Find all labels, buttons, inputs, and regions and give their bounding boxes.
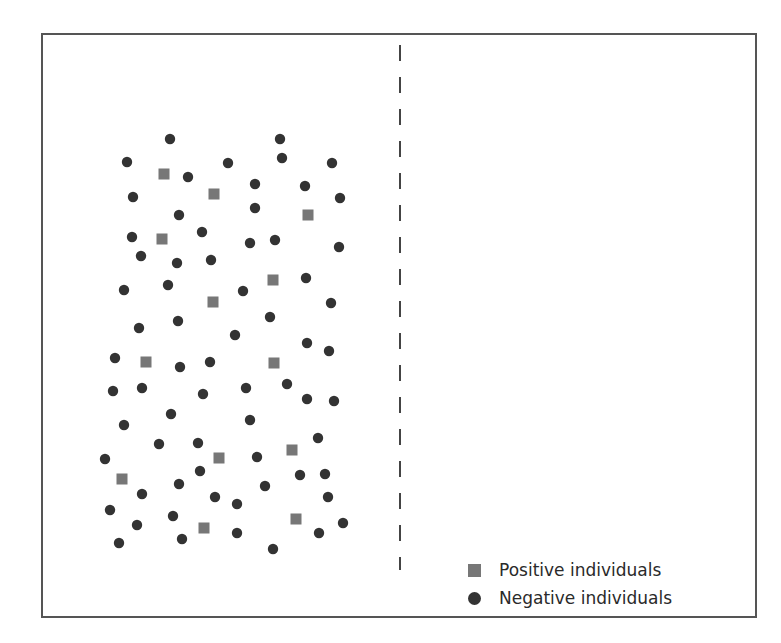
negative-individual-marker [137, 489, 147, 499]
positive-points-group [117, 169, 314, 534]
negative-individual-marker [206, 255, 216, 265]
negative-individual-marker [300, 181, 310, 191]
negative-individual-marker [174, 479, 184, 489]
negative-individual-marker [119, 420, 129, 430]
negative-individual-marker [295, 470, 305, 480]
negative-individual-marker [168, 511, 178, 521]
negative-individual-marker [302, 394, 312, 404]
negative-individual-marker [136, 251, 146, 261]
legend-item-negative: Negative individuals [468, 587, 672, 609]
positive-individual-marker [199, 523, 210, 534]
negative-individual-marker [232, 528, 242, 538]
negative-individual-marker [245, 238, 255, 248]
positive-individual-marker [208, 297, 219, 308]
positive-individual-marker [268, 275, 279, 286]
negative-individual-marker [252, 452, 262, 462]
negative-individual-marker [198, 389, 208, 399]
circle-marker-icon [468, 592, 481, 605]
negative-individual-marker [327, 158, 337, 168]
negative-individual-marker [210, 492, 220, 502]
negative-individual-marker [301, 273, 311, 283]
square-marker-icon [468, 564, 481, 577]
negative-individual-marker [177, 534, 187, 544]
negative-individual-marker [302, 338, 312, 348]
negative-individual-marker [270, 235, 280, 245]
negative-individual-marker [163, 280, 173, 290]
negative-individual-marker [230, 330, 240, 340]
negative-individual-marker [165, 134, 175, 144]
negative-individual-marker [223, 158, 233, 168]
negative-individual-marker [326, 298, 336, 308]
negative-individual-marker [134, 323, 144, 333]
legend-label-positive: Positive individuals [499, 560, 661, 580]
positive-individual-marker [303, 210, 314, 221]
negative-individual-marker [114, 538, 124, 548]
negative-individual-marker [122, 157, 132, 167]
negative-individual-marker [108, 386, 118, 396]
negative-individual-marker [268, 544, 278, 554]
legend-label-negative: Negative individuals [499, 588, 672, 608]
negative-individual-marker [265, 312, 275, 322]
negative-individual-marker [110, 353, 120, 363]
positive-individual-marker [214, 453, 225, 464]
negative-individual-marker [314, 528, 324, 538]
negative-individual-marker [277, 153, 287, 163]
positive-individual-marker [117, 474, 128, 485]
scatter-plot [0, 0, 781, 643]
negative-individual-marker [282, 379, 292, 389]
negative-individual-marker [313, 433, 323, 443]
negative-individual-marker [250, 203, 260, 213]
negative-individual-marker [197, 227, 207, 237]
negative-individual-marker [127, 232, 137, 242]
negative-individual-marker [245, 415, 255, 425]
negative-individual-marker [193, 438, 203, 448]
negative-individual-marker [338, 518, 348, 528]
negative-points-group [100, 134, 348, 554]
negative-individual-marker [166, 409, 176, 419]
negative-individual-marker [195, 466, 205, 476]
negative-individual-marker [172, 258, 182, 268]
negative-individual-marker [260, 481, 270, 491]
negative-individual-marker [175, 362, 185, 372]
negative-individual-marker [183, 172, 193, 182]
negative-individual-marker [205, 357, 215, 367]
negative-individual-marker [241, 383, 251, 393]
positive-individual-marker [287, 445, 298, 456]
negative-individual-marker [323, 492, 333, 502]
positive-individual-marker [291, 514, 302, 525]
negative-individual-marker [250, 179, 260, 189]
negative-individual-marker [334, 242, 344, 252]
negative-individual-marker [238, 286, 248, 296]
positive-individual-marker [269, 358, 280, 369]
negative-individual-marker [119, 285, 129, 295]
negative-individual-marker [154, 439, 164, 449]
positive-individual-marker [209, 189, 220, 200]
legend-item-positive: Positive individuals [468, 559, 661, 581]
negative-individual-marker [324, 346, 334, 356]
negative-individual-marker [173, 316, 183, 326]
positive-individual-marker [159, 169, 170, 180]
positive-individual-marker [141, 357, 152, 368]
negative-individual-marker [329, 396, 339, 406]
negative-individual-marker [174, 210, 184, 220]
negative-individual-marker [132, 520, 142, 530]
negative-individual-marker [128, 192, 138, 202]
positive-individual-marker [157, 234, 168, 245]
negative-individual-marker [232, 499, 242, 509]
negative-individual-marker [100, 454, 110, 464]
negative-individual-marker [335, 193, 345, 203]
negative-individual-marker [320, 469, 330, 479]
negative-individual-marker [105, 505, 115, 515]
negative-individual-marker [275, 134, 285, 144]
negative-individual-marker [137, 383, 147, 393]
